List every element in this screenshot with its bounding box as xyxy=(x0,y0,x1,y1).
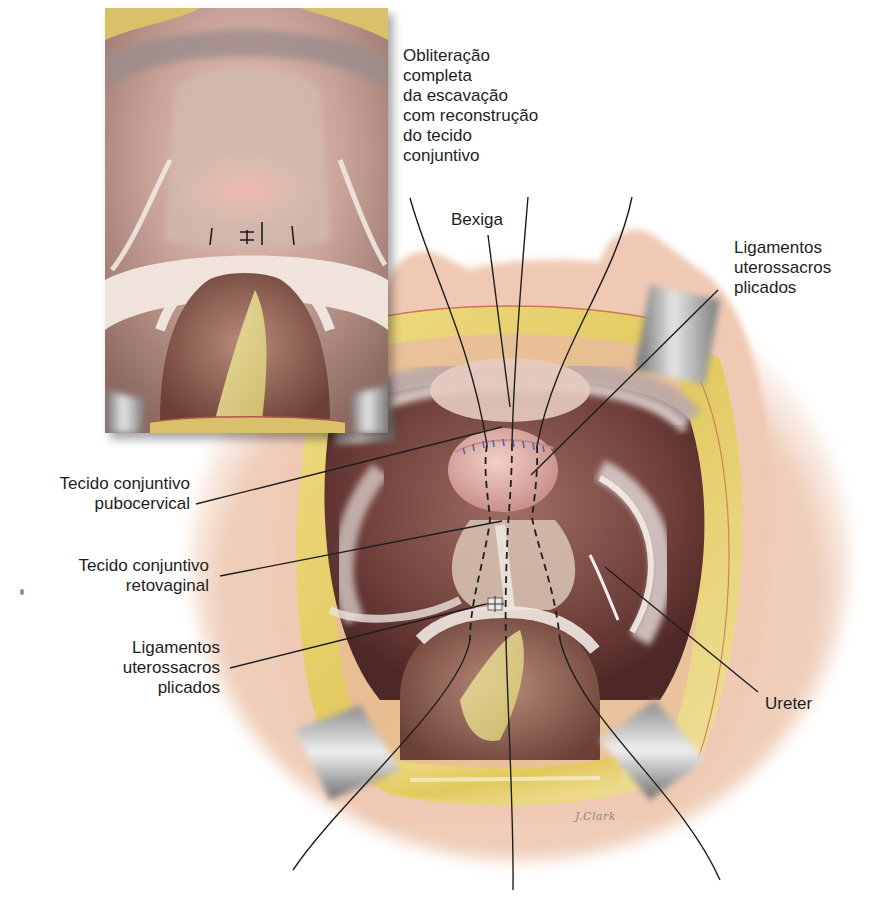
label-bladder: Bexiga xyxy=(451,210,503,230)
label-uterosacral-left: Ligamentos uterossacros plicados xyxy=(123,638,220,698)
label-rectovaginal: Tecido conjuntivo retovaginal xyxy=(79,556,209,596)
detail-inset xyxy=(105,8,393,439)
artist-signature: J.Clark xyxy=(573,810,616,823)
label-ureter: Ureter xyxy=(765,694,812,714)
label-pubocervical: Tecido conjuntivo pubocervical xyxy=(60,474,190,514)
label-uterosacral-top: Ligamentos uterossacros plicados xyxy=(734,238,831,298)
label-obliteration: Obliteração completa da escavação com re… xyxy=(403,46,538,166)
ink-speck xyxy=(20,589,24,595)
